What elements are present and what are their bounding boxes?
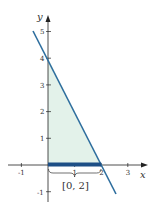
- y-axis-label: y: [36, 11, 43, 22]
- x-tick-label: -1: [18, 169, 25, 177]
- x-axis-label: x: [140, 169, 146, 180]
- x-tick-label: 3: [126, 169, 130, 177]
- y-tick-label: 4: [40, 55, 45, 63]
- diagram: -1 1 2 3 x 5 4 3 2 1 -1 y [0, 2]: [0, 0, 157, 210]
- y-tick-label: 1: [40, 135, 44, 143]
- x-axis-arrow-icon: [141, 163, 148, 168]
- interval-bar: [48, 163, 101, 167]
- y-tick-label: 5: [40, 28, 44, 36]
- interval-label: [0, 2]: [62, 180, 89, 191]
- y-ticks: [46, 32, 51, 192]
- y-axis-arrow-icon: [46, 15, 51, 22]
- y-tick-label: -1: [37, 189, 44, 197]
- y-tick-label: 3: [40, 82, 44, 90]
- y-tick-label: 2: [40, 108, 44, 116]
